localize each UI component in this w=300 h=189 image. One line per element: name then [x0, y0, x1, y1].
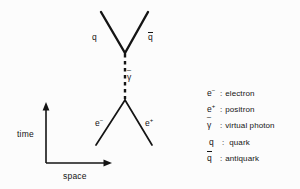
quark-leg-line [101, 12, 125, 53]
legend-symbol-virtual-photon: γ [207, 120, 220, 130]
electron-label: e− [95, 119, 103, 128]
legend-description-electron: electron [225, 89, 299, 98]
legend-symbol-quark: q [207, 137, 222, 147]
quark-label: q [92, 33, 97, 42]
space-axis-arrowhead [104, 160, 113, 167]
antiquark-label: q [148, 33, 153, 42]
time-axis-arrowhead [43, 102, 50, 111]
legend-description-quark: quark [227, 138, 299, 147]
legend-row: e+ : positron [207, 104, 299, 120]
legend-row: e− : electron [207, 88, 299, 104]
legend: e− : electron e+ : positron γ : virtual … [207, 88, 299, 169]
legend-row: q : quark [207, 137, 299, 153]
legend-description-virtual-photon: virtual photon [225, 121, 299, 130]
space-axis-label: space [63, 172, 87, 181]
legend-row: γ : virtual photon [207, 120, 299, 136]
legend-description-positron: positron [225, 105, 299, 114]
legend-description-antiquark: antiquark [225, 154, 299, 163]
virtual-photon-label: γ [127, 73, 131, 82]
legend-symbol-antiquark: q [207, 153, 220, 163]
legend-symbol-electron: e− [207, 88, 220, 98]
legend-row: q : antiquark [207, 153, 299, 169]
antiquark-leg-line [125, 12, 148, 53]
positron-label: e+ [145, 119, 153, 128]
time-axis-label: time [17, 130, 34, 139]
